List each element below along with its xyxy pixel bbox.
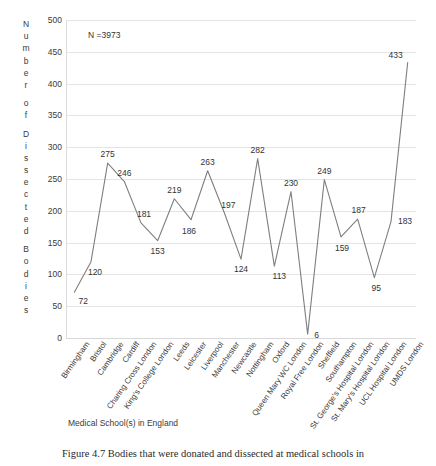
y-axis-title-letter: N bbox=[23, 18, 29, 30]
y-axis-title-letter: i bbox=[25, 140, 27, 152]
y-axis-title-letter: s bbox=[24, 164, 28, 176]
y-axis-tick-label: 250 bbox=[36, 174, 62, 184]
plot-area: 7212027524618115321918626319712428211323… bbox=[66, 20, 416, 338]
y-axis-title-letter: e bbox=[24, 292, 29, 304]
figure-container: NumberofDissectedBodies 5004504003503002… bbox=[0, 0, 436, 466]
data-point-label: 72 bbox=[79, 296, 88, 306]
data-point-label: 124 bbox=[234, 264, 248, 274]
y-axis-title-letter: b bbox=[24, 55, 29, 67]
y-axis-tick-label: 0 bbox=[36, 333, 62, 343]
x-axis-category-label: Birmingham bbox=[60, 340, 92, 380]
x-axis-title: Medical School(s) in England bbox=[68, 418, 178, 428]
y-axis-title-letter: m bbox=[22, 42, 29, 54]
y-axis-tick-label: 300 bbox=[36, 142, 62, 152]
data-point-label: 282 bbox=[251, 145, 265, 155]
y-axis-tick-labels: 500450400350300250200150100500 bbox=[36, 0, 62, 360]
y-axis-tick-label: 100 bbox=[36, 269, 62, 279]
y-axis-tick-label: 500 bbox=[36, 15, 62, 25]
data-point-label: 95 bbox=[372, 283, 381, 293]
data-point-label: 159 bbox=[335, 243, 349, 253]
y-axis-tick-label: 50 bbox=[36, 301, 62, 311]
data-point-label: 183 bbox=[398, 216, 412, 226]
data-point-label: 230 bbox=[284, 178, 298, 188]
y-axis-title-letter: D bbox=[23, 128, 29, 140]
y-axis-title-letter: t bbox=[25, 201, 27, 213]
y-axis-title-letter: B bbox=[23, 243, 29, 255]
y-axis-title-letter: s bbox=[24, 152, 28, 164]
data-point-label: 120 bbox=[88, 267, 102, 277]
y-axis-tick-label: 400 bbox=[36, 79, 62, 89]
y-axis-title-letter: e bbox=[24, 176, 29, 188]
y-axis-title-letter: d bbox=[24, 268, 29, 280]
data-point-label: 246 bbox=[117, 168, 131, 178]
y-axis-title-letter: u bbox=[24, 30, 29, 42]
y-axis-title-letter: d bbox=[24, 225, 29, 237]
y-axis-title-letter: e bbox=[24, 67, 29, 79]
data-point-label: 187 bbox=[352, 205, 366, 215]
data-point-label: 249 bbox=[317, 166, 331, 176]
y-axis-tick-label: 150 bbox=[36, 238, 62, 248]
data-point-label: 181 bbox=[137, 209, 151, 219]
data-point-label: 153 bbox=[151, 246, 165, 256]
y-axis-title-letter: o bbox=[24, 255, 29, 267]
y-axis-title-letter: r bbox=[25, 79, 28, 91]
data-point-label: 433 bbox=[389, 50, 403, 60]
y-axis-title: NumberofDissectedBodies bbox=[18, 18, 34, 358]
figure-caption: Figure 4.7 Bodies that were donated and … bbox=[62, 448, 432, 459]
y-axis-tick-label: 350 bbox=[36, 110, 62, 120]
data-point-label: 275 bbox=[101, 149, 115, 159]
data-point-label: 186 bbox=[182, 226, 196, 236]
data-point-label: 6 bbox=[314, 330, 319, 340]
data-point-label: 219 bbox=[167, 185, 181, 195]
y-axis-title-letter: s bbox=[24, 304, 28, 316]
data-point-label: 197 bbox=[221, 200, 235, 210]
y-axis-tick-label: 450 bbox=[36, 47, 62, 57]
y-axis-title-letter: c bbox=[24, 188, 28, 200]
y-axis-tick-label: 200 bbox=[36, 206, 62, 216]
line-series bbox=[66, 20, 416, 338]
data-point-label: 263 bbox=[201, 157, 215, 167]
y-axis-title-letter: f bbox=[25, 109, 27, 121]
y-axis-title-letter: i bbox=[25, 280, 27, 292]
gridline bbox=[66, 338, 416, 339]
y-axis-title-letter: o bbox=[24, 97, 29, 109]
data-point-label: 113 bbox=[273, 271, 287, 281]
y-axis-title-letter: e bbox=[24, 213, 29, 225]
